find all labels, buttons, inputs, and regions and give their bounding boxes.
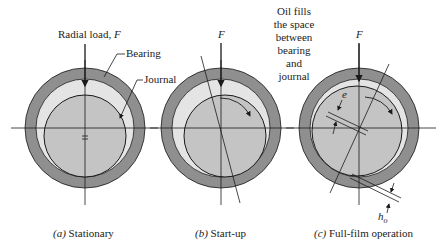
panel-stationary: Radial load, F Bearing Journal (a) Stati… bbox=[11, 28, 176, 240]
svg-text:the space: the space bbox=[274, 18, 315, 30]
journal-label: Journal bbox=[144, 73, 176, 85]
panel-full-film: F e ho Oil fills the space between beari… bbox=[274, 5, 436, 240]
svg-text:between: between bbox=[276, 31, 313, 43]
film-leader bbox=[387, 204, 389, 213]
journal bbox=[184, 95, 266, 177]
bearing-label: Bearing bbox=[126, 47, 161, 59]
caption-start-up: (b) Start-up bbox=[195, 227, 247, 240]
radial-load-label: Radial load, F bbox=[58, 28, 121, 40]
svg-text:and: and bbox=[286, 57, 302, 69]
min-film-thickness-label: ho bbox=[378, 210, 388, 225]
journal-bearing-diagram: Radial load, F Bearing Journal (a) Stati… bbox=[0, 0, 447, 245]
panel-start-up: F (b) Start-up bbox=[150, 28, 294, 240]
film-leader bbox=[391, 183, 394, 192]
caption-stationary: (a) Stationary bbox=[53, 227, 114, 240]
load-symbol: F bbox=[355, 28, 363, 40]
eccentricity-label: e bbox=[342, 88, 347, 100]
svg-text:Oil fills: Oil fills bbox=[277, 5, 311, 17]
svg-text:journal: journal bbox=[277, 70, 309, 82]
caption-full-film: (c) Full-film operation bbox=[314, 227, 413, 240]
oil-note: Oil fills the space between bearing and … bbox=[274, 5, 315, 82]
load-symbol: F bbox=[217, 28, 225, 40]
svg-text:bearing: bearing bbox=[278, 44, 311, 56]
